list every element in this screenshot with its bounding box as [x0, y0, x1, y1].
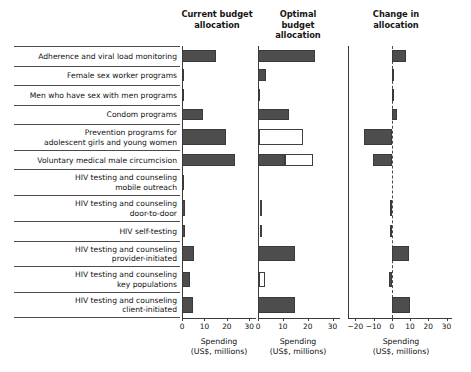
axis-caption-current-line2: (US$, millions): [176, 347, 262, 357]
x-axis-tick: [249, 318, 250, 321]
bar-hiv-testing-counseling-provider-initiated: [182, 246, 194, 261]
x-axis-tick-label: 30: [435, 322, 459, 331]
category-label-prevention-programs-adolescent-girls: Prevention programs foradolescent girls …: [14, 124, 180, 150]
bar-hiv-testing-counseling-key-populations: [389, 272, 391, 287]
category-label-line: HIV testing and counseling: [75, 199, 177, 208]
bar-voluntary-medical-male-circumcision: [182, 154, 235, 166]
bar-hiv-self-testing: [390, 225, 392, 237]
category-label-line: mobile outreach: [115, 183, 177, 192]
category-label-line: Female sex worker programs: [67, 71, 177, 80]
bar-hiv-testing-counseling-client-initiated: [392, 297, 410, 312]
category-label-hiv-testing-counseling-mobile-outreach: HIV testing and counselingmobile outreac…: [14, 169, 180, 195]
bar-men-who-have-sex-with-men-programs: [182, 89, 184, 101]
bar-adherence-viral-load-monitoring: [392, 50, 406, 62]
bar-hiv-testing-counseling-provider-initiated: [392, 246, 410, 261]
bar-hiv-testing-counseling-key-populations: [259, 272, 265, 287]
bar-hiv-testing-counseling-door-to-door: [260, 200, 263, 215]
category-label-line: Adherence and viral load monitoring: [38, 52, 177, 61]
chart-figure: Current budget allocation Optimal budget…: [0, 0, 471, 372]
bar-voluntary-medical-male-circumcision: [258, 154, 285, 166]
category-label-hiv-testing-counseling-door-to-door: HIV testing and counselingdoor-to-door: [14, 195, 180, 221]
axis-caption-change-line1: Spending: [358, 337, 444, 347]
category-label-line: key populations: [117, 280, 177, 289]
bar-hiv-testing-counseling-client-initiated: [182, 297, 193, 312]
panel-title-change: Change in allocation: [356, 9, 436, 30]
bar-hiv-testing-counseling-provider-initiated: [258, 246, 295, 261]
bar-voluntary-medical-male-circumcision: [285, 154, 313, 166]
category-label-line: Condom programs: [107, 110, 177, 119]
bar-female-sex-worker-programs: [258, 69, 266, 81]
x-axis-line: [258, 318, 340, 319]
x-axis-tick-label: 20: [215, 322, 239, 331]
category-label-condom-programs: Condom programs: [14, 105, 180, 125]
panel-title-optimal: Optimal budget allocation: [263, 9, 333, 41]
bar-prevention-programs-adolescent-girls: [364, 129, 392, 144]
x-axis-tick-label: 30: [321, 322, 345, 331]
panel-current-budget-allocation: 0102030: [182, 46, 256, 318]
bar-female-sex-worker-programs: [182, 69, 184, 81]
category-label-line: Prevention programs for: [85, 128, 177, 137]
category-label-female-sex-worker-programs: Female sex worker programs: [14, 66, 180, 86]
category-label-line: HIV testing and counseling: [75, 245, 177, 254]
bar-condom-programs: [258, 109, 289, 121]
category-label-line: door-to-door: [130, 209, 177, 218]
axis-caption-optimal-line2: (US$, millions): [255, 347, 341, 357]
x-axis-tick: [410, 318, 411, 321]
x-axis-tick-label: 10: [271, 322, 295, 331]
bar-condom-programs: [392, 109, 397, 121]
x-axis-tick: [392, 318, 393, 321]
x-axis-tick: [227, 318, 228, 321]
x-axis-tick: [283, 318, 284, 321]
x-axis-tick-label: 0: [246, 322, 270, 331]
category-label-hiv-testing-counseling-key-populations: HIV testing and counselingkey population…: [14, 266, 180, 292]
x-axis-line: [348, 318, 452, 319]
category-label-line: Men who have sex with men programs: [30, 91, 177, 100]
x-axis-tick-label: 0: [170, 322, 194, 331]
panel-title-current: Current budget allocation: [181, 9, 253, 30]
bar-prevention-programs-adolescent-girls: [182, 129, 226, 144]
panel-title-optimal-line2: allocation: [263, 30, 333, 41]
bar-hiv-testing-counseling-mobile-outreach: [182, 175, 184, 190]
panel-optimal-budget-allocation: 0102030: [258, 46, 340, 318]
y-axis-line: [348, 46, 349, 318]
x-axis-tick-label: 10: [192, 322, 216, 331]
category-label-line: HIV self-testing: [119, 227, 177, 236]
x-axis-tick-label: 20: [296, 322, 320, 331]
category-label-hiv-testing-counseling-client-initiated: HIV testing and counselingclient-initiat…: [14, 292, 180, 318]
axis-caption-current-line1: Spending: [176, 337, 262, 347]
category-label-column: Adherence and viral load monitoringFemal…: [14, 46, 182, 318]
panel-title-change-line2: allocation: [356, 20, 436, 31]
bar-hiv-testing-counseling-door-to-door: [182, 200, 185, 215]
bar-hiv-testing-counseling-client-initiated: [258, 297, 295, 312]
bar-condom-programs: [182, 109, 203, 121]
bar-prevention-programs-adolescent-girls: [259, 129, 303, 144]
bar-men-who-have-sex-with-men-programs: [392, 89, 394, 101]
x-axis-tick: [447, 318, 448, 321]
category-label-hiv-testing-counseling-provider-initiated: HIV testing and counselingprovider-initi…: [14, 241, 180, 267]
x-axis-tick: [308, 318, 309, 321]
bar-hiv-testing-counseling-key-populations: [182, 272, 190, 287]
bar-female-sex-worker-programs: [392, 69, 394, 81]
x-axis-tick: [355, 318, 356, 321]
category-label-adherence-viral-load-monitoring: Adherence and viral load monitoring: [14, 46, 180, 66]
x-axis-tick: [374, 318, 375, 321]
x-axis-tick: [258, 318, 259, 321]
panel-change-in-allocation: −20−100102030: [348, 46, 452, 318]
x-axis-tick: [428, 318, 429, 321]
panel-title-optimal-line1: Optimal budget: [263, 9, 333, 30]
category-label-line: client-initiated: [122, 305, 177, 314]
bar-hiv-testing-counseling-door-to-door: [390, 200, 392, 215]
category-label-line: adolescent girls and young women: [44, 138, 177, 147]
axis-caption-optimal-line1: Spending: [255, 337, 341, 347]
bar-voluntary-medical-male-circumcision: [373, 154, 392, 166]
bar-adherence-viral-load-monitoring: [182, 50, 216, 62]
x-axis-tick: [204, 318, 205, 321]
category-label-hiv-self-testing: HIV self-testing: [14, 221, 180, 241]
bar-hiv-self-testing: [260, 225, 262, 237]
category-label-men-who-have-sex-with-men-programs: Men who have sex with men programs: [14, 85, 180, 105]
x-axis-tick: [333, 318, 334, 321]
bar-adherence-viral-load-monitoring: [258, 50, 315, 62]
zero-reference-line: [392, 46, 393, 318]
panel-title-current-line2: allocation: [181, 20, 253, 31]
x-axis-line: [182, 318, 256, 319]
